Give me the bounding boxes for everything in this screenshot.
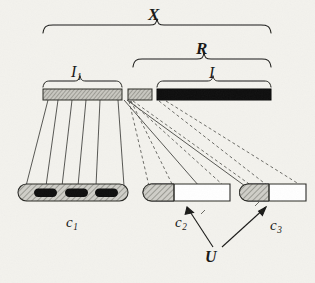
figure-canvas: X R I1 I c1 c2 c3 U [0,0,315,283]
top-bar-I1 [43,89,122,100]
label-I: I [209,65,214,81]
capsule-c2 [143,184,230,201]
arrow-U-to-c2 [185,207,213,247]
label-X: X [148,6,159,23]
top-bar-I [157,89,271,100]
top-bar-small [128,89,152,100]
label-c3: c3 [270,218,281,233]
label-I1-subscript: 1 [77,71,82,82]
capsule-c3 [240,184,307,201]
label-R: R [196,40,207,57]
label-tick-marks [201,202,259,214]
label-c2-subscript: 2 [182,222,187,232]
dashed-connector-lines [129,101,302,186]
solid-connector-lines [26,100,245,186]
label-I1-base: I [71,63,76,80]
label-c1-subscript: 1 [73,222,78,232]
label-c1: c1 [66,215,77,230]
diagram-vector-layer [0,0,315,283]
label-c3-base: c [270,217,277,233]
arrow-U-to-c3 [222,207,266,247]
label-c1-base: c [66,214,73,230]
label-I1: I1 [71,64,81,80]
label-c2: c2 [175,215,186,230]
label-c3-subscript: 3 [277,225,282,235]
brace-I1 [43,76,122,87]
capsule-c1-holes [34,189,118,198]
capsule-c1 [18,184,128,201]
label-c2-base: c [175,214,182,230]
label-U: U [205,249,217,265]
